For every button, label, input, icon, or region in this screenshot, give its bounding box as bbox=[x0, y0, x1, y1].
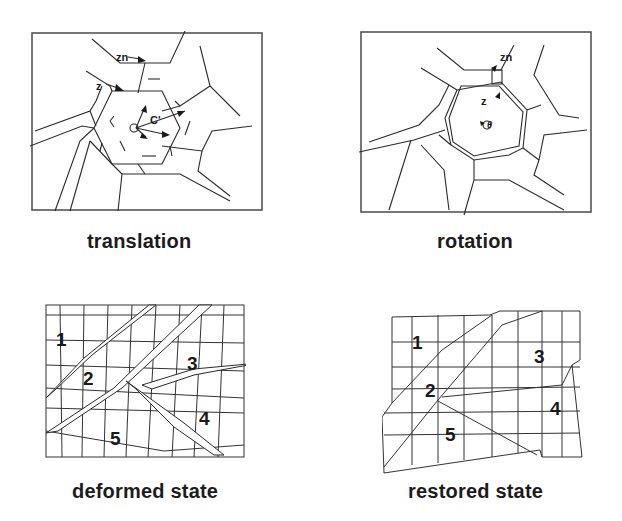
region-3-label: 3 bbox=[534, 346, 545, 367]
region-2-label: 2 bbox=[425, 380, 436, 401]
panel-frame bbox=[361, 32, 591, 212]
region-1-label: 1 bbox=[56, 329, 67, 350]
restored-state-caption: restored state bbox=[408, 480, 543, 503]
panel-frame bbox=[32, 33, 262, 210]
deformed-mesh bbox=[46, 305, 246, 457]
rotation-panel: zn z θ bbox=[359, 30, 595, 216]
zn-label: zn bbox=[500, 51, 513, 63]
region-5-label: 5 bbox=[110, 428, 121, 449]
region-3-label: 3 bbox=[187, 353, 198, 374]
restored-state-panel: 1 2 3 4 5 bbox=[382, 305, 592, 475]
translation-caption: translation bbox=[87, 230, 191, 253]
theta-label: θ bbox=[487, 120, 492, 130]
translation-panel: zn z C' bbox=[30, 31, 266, 215]
zn-label: zn bbox=[116, 51, 129, 63]
z-label: z bbox=[96, 80, 102, 92]
z-label: z bbox=[481, 95, 487, 107]
rotation-caption: rotation bbox=[437, 230, 513, 253]
region-1-label: 1 bbox=[412, 332, 423, 353]
grain-boundary-network bbox=[359, 45, 587, 215]
grain-boundary-network bbox=[30, 31, 252, 211]
region-4-label: 4 bbox=[199, 408, 210, 429]
region-5-label: 5 bbox=[445, 424, 456, 445]
region-2-label: 2 bbox=[83, 368, 94, 389]
deformed-state-caption: deformed state bbox=[72, 480, 218, 503]
region-4-label: 4 bbox=[550, 398, 561, 419]
deformed-state-panel: 1 2 3 4 5 bbox=[44, 303, 246, 461]
c-prime-label: C' bbox=[150, 114, 161, 126]
